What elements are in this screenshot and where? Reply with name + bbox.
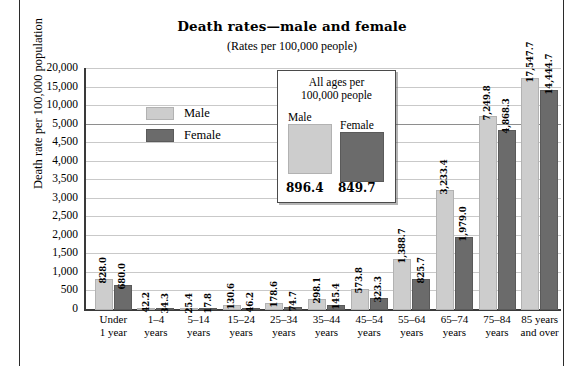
bar-value-label: 145.4 <box>332 283 341 309</box>
y-axis-tick-label: 20,000 <box>46 62 78 74</box>
x-tick-line1: 55–64 <box>390 313 433 326</box>
chart-page: Death rates—male and female (Rates per 1… <box>0 0 584 366</box>
bar-value-label: 17.8 <box>204 293 213 314</box>
bar-value-label: 130.6 <box>228 283 237 309</box>
x-tick-line1: 5–14 <box>177 313 220 326</box>
y-axis-tick-label: 10,000 <box>46 99 78 111</box>
x-tick-line2: years <box>220 326 263 339</box>
y-axis-tick-label: 2,500 <box>52 210 78 222</box>
inset-label-female: Female <box>340 119 384 131</box>
x-tick-line2: years <box>135 326 178 339</box>
inset-heading-line2: 100,000 people <box>278 89 395 102</box>
x-tick-line1: 65–74 <box>433 313 476 326</box>
inset-heading-line1: All ages per <box>278 76 395 89</box>
y-axis-line <box>84 68 86 310</box>
y-axis-tick-label: 0 <box>72 303 78 315</box>
x-tick-line2: years <box>390 326 433 339</box>
bar-value-label: 298.1 <box>313 277 322 303</box>
x-tick-line1: 85 years <box>518 313 561 326</box>
bar-female <box>455 237 473 310</box>
x-tick-line1: 35–44 <box>305 313 348 326</box>
bar-value-label: 1,979.0 <box>460 206 469 241</box>
bar-value-label: 4,868.3 <box>502 99 511 134</box>
inset-bar-male <box>288 124 332 174</box>
inset-column-female: Female <box>340 119 384 182</box>
y-axis-tick-label: 4,000 <box>52 155 78 167</box>
x-tick-line2: years <box>263 326 306 339</box>
x-axis-tick-label: 85 yearsand over <box>518 313 561 338</box>
y-axis-tick-label: 5,000 <box>52 118 78 130</box>
y-axis-tick-label: 15,000 <box>46 81 78 93</box>
x-tick-line2: years <box>476 326 519 339</box>
y-axis-tick-label: 2,000 <box>52 229 78 241</box>
bar-value-label: 17,547.7 <box>526 42 535 83</box>
y-axis-tick-label: 3,000 <box>52 192 78 204</box>
all-ages-inset-box: All ages per 100,000 people Male Female … <box>277 70 396 203</box>
bar-value-label: 573.8 <box>356 267 365 293</box>
bar-value-label: 1,388.7 <box>398 228 407 263</box>
x-tick-line2: years <box>305 326 348 339</box>
y-axis-tick-label: 1,500 <box>52 247 78 259</box>
page-subtitle: (Rates per 100,000 people) <box>0 39 584 54</box>
legend-swatch-male-icon <box>146 107 174 120</box>
y-axis-tick-label: 3,500 <box>52 173 78 185</box>
inset-column-male: Male <box>288 111 332 174</box>
x-axis-tick-label: Under1 year <box>92 313 135 338</box>
bar-male <box>479 116 497 310</box>
bar-value-label: 178.6 <box>270 282 279 308</box>
gridline <box>85 68 561 69</box>
bar-value-label: 680.0 <box>119 263 128 289</box>
x-axis-tick-label: 55–64years <box>390 313 433 338</box>
inset-bars: Male Female <box>278 111 395 177</box>
bar-value-label: 828.0 <box>100 257 109 283</box>
bar-value-label: 3,233.4 <box>441 160 450 195</box>
x-tick-line1: 45–54 <box>348 313 391 326</box>
y-axis-tick-label: 1,000 <box>52 266 78 278</box>
bar-female <box>540 90 558 310</box>
page-title: Death rates—male and female <box>0 18 584 34</box>
x-tick-line2: years <box>177 326 220 339</box>
inset-bar-female <box>340 132 384 182</box>
x-axis-tick-label: 45–54years <box>348 313 391 338</box>
inset-value-female: 849.7 <box>338 181 376 195</box>
x-axis-tick-label: 75–84years <box>476 313 519 338</box>
x-axis-tick-label: 25–34years <box>263 313 306 338</box>
x-tick-line1: 1–4 <box>135 313 178 326</box>
x-tick-line2: years <box>348 326 391 339</box>
legend-item-female: Female <box>146 124 221 146</box>
x-tick-line1: Under <box>92 313 135 326</box>
bar-male <box>393 259 411 310</box>
bar-female <box>498 130 516 311</box>
inset-heading: All ages per 100,000 people <box>278 76 395 102</box>
x-tick-line2: years <box>433 326 476 339</box>
x-tick-line1: 15–24 <box>220 313 263 326</box>
x-axis-tick-label: 65–74years <box>433 313 476 338</box>
bar-male <box>521 78 539 310</box>
bar-value-label: 825.7 <box>417 258 426 284</box>
bar-value-label: 46.2 <box>247 292 256 313</box>
legend: Male Female <box>146 102 221 146</box>
bar-male <box>95 279 113 310</box>
legend-item-male: Male <box>146 102 221 124</box>
legend-label-female: Female <box>184 128 221 143</box>
bar-value-label: 25.4 <box>185 293 194 314</box>
bar-male <box>436 190 454 310</box>
y-axis-tick-label: 4,500 <box>52 136 78 148</box>
x-axis-tick-label: 35–44years <box>305 313 348 338</box>
bar-value-label: 42.2 <box>142 292 151 313</box>
legend-swatch-female-icon <box>146 129 174 142</box>
inset-label-male: Male <box>288 111 332 123</box>
x-tick-line2: and over <box>518 326 561 339</box>
x-tick-line1: 75–84 <box>476 313 519 326</box>
page-rule-right <box>563 0 564 366</box>
x-axis-tick-label: 15–24years <box>220 313 263 338</box>
bar-value-label: 7,249.8 <box>483 86 492 121</box>
bar-value-label: 323.3 <box>375 276 384 302</box>
y-axis-tick-label: 500 <box>61 284 78 296</box>
bar-value-label: 14,444.7 <box>545 53 554 94</box>
inset-value-male: 896.4 <box>286 181 324 195</box>
x-tick-line1: 25–34 <box>263 313 306 326</box>
x-axis-tick-label: 5–14years <box>177 313 220 338</box>
y-axis-tick-group: 20,00015,00010,0005,0004,5004,0003,5003,… <box>0 68 84 318</box>
x-axis-tick-label: 1–4years <box>135 313 178 338</box>
